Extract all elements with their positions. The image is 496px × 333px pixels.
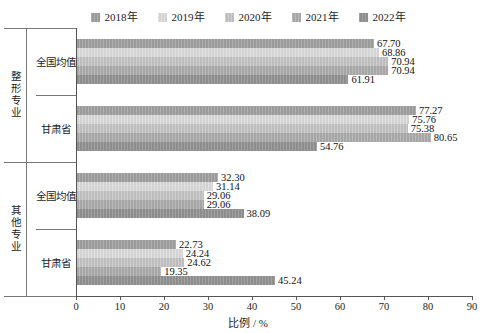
bar-group: 22.7324.2424.6219.3545.24 <box>76 240 472 285</box>
x-tick-mark <box>252 296 253 300</box>
bar-value-label: 61.91 <box>348 74 375 85</box>
x-tick-label: 60 <box>335 301 346 312</box>
x-tick-label: 30 <box>203 301 214 312</box>
y-axis-outer-separator <box>4 162 76 163</box>
legend-item-2019年[interactable]: 2019年 <box>158 12 205 23</box>
chart-root: 2018年2019年2020年2021年2022年 67.7068.8670.9… <box>0 0 496 333</box>
bar-row: 54.76 <box>76 142 472 151</box>
legend-swatch-icon <box>158 13 167 22</box>
y-axis-group-divider <box>26 162 27 296</box>
bar[interactable] <box>76 209 244 218</box>
bar-row: 29.06 <box>76 200 472 209</box>
y-axis-category-label: 甘肃省 <box>36 229 76 296</box>
bar-group: 32.3031.1429.0629.0638.09 <box>76 173 472 218</box>
bar[interactable] <box>76 249 183 258</box>
y-axis-outer-separator <box>4 28 76 29</box>
legend-label: 2022年 <box>373 12 406 23</box>
bar-row: 61.91 <box>76 75 472 84</box>
bar[interactable] <box>76 173 218 182</box>
y-axis-category-label: 全国均值 <box>36 28 76 95</box>
chart-legend: 2018年2019年2020年2021年2022年 <box>0 8 496 26</box>
legend-item-2022年[interactable]: 2022年 <box>359 12 406 23</box>
y-axis-outer-separator <box>4 296 76 297</box>
legend-swatch-icon <box>292 13 301 22</box>
x-axis-label: 比例 / % <box>0 314 496 330</box>
x-tick-label: 10 <box>115 301 126 312</box>
x-tick-mark <box>76 296 77 300</box>
bar[interactable] <box>76 142 317 151</box>
bar-value-label: 38.09 <box>244 208 271 219</box>
legend-label: 2021年 <box>306 12 339 23</box>
bar-row: 80.65 <box>76 133 472 142</box>
y-axis-group-label-text: 整形专业 <box>8 71 23 119</box>
bar[interactable] <box>76 106 416 115</box>
bar[interactable] <box>76 276 275 285</box>
bar[interactable] <box>76 267 161 276</box>
bar-row: 22.73 <box>76 240 472 249</box>
x-tick-mark <box>296 296 297 300</box>
x-axis-line <box>76 296 473 297</box>
bar-row: 67.70 <box>76 39 472 48</box>
x-tick-mark <box>340 296 341 300</box>
bar[interactable] <box>76 124 408 133</box>
bar[interactable] <box>76 115 409 124</box>
legend-swatch-icon <box>225 13 234 22</box>
bar-row: 38.09 <box>76 209 472 218</box>
x-tick-label: 20 <box>159 301 170 312</box>
bar-row: 19.35 <box>76 267 472 276</box>
y-axis-line <box>76 28 77 296</box>
y-axis-category-label: 甘肃省 <box>36 95 76 162</box>
bar[interactable] <box>76 133 431 142</box>
x-tick-label: 40 <box>247 301 258 312</box>
bar[interactable] <box>76 240 176 249</box>
x-tick-mark <box>472 296 473 300</box>
y-axis-group-label-text: 其他专业 <box>8 205 23 253</box>
bar[interactable] <box>76 48 379 57</box>
legend-item-2021年[interactable]: 2021年 <box>292 12 339 23</box>
bar[interactable] <box>76 182 213 191</box>
legend-label: 2019年 <box>172 12 205 23</box>
x-tick-label: 50 <box>291 301 302 312</box>
plot-area: 67.7068.8670.9470.9461.9177.2775.7675.38… <box>76 28 472 296</box>
x-tick-mark <box>120 296 121 300</box>
bar-row: 32.30 <box>76 173 472 182</box>
x-tick-mark <box>384 296 385 300</box>
legend-swatch-icon <box>91 13 100 22</box>
legend-label: 2018年 <box>105 12 138 23</box>
bar-row: 31.14 <box>76 182 472 191</box>
y-axis-group-label: 整形专业 <box>4 28 26 162</box>
bar-group: 67.7068.8670.9470.9461.91 <box>76 39 472 84</box>
bar-value-label: 54.76 <box>317 141 344 152</box>
x-tick-mark <box>428 296 429 300</box>
x-tick-label: 70 <box>379 301 390 312</box>
bar[interactable] <box>76 57 388 66</box>
bar[interactable] <box>76 191 204 200</box>
x-tick-label: 80 <box>423 301 434 312</box>
y-axis-group-label: 其他专业 <box>4 162 26 296</box>
x-tick-mark <box>164 296 165 300</box>
bar-row: 24.62 <box>76 258 472 267</box>
legend-item-2020年[interactable]: 2020年 <box>225 12 272 23</box>
legend-swatch-icon <box>359 13 368 22</box>
bar-row: 29.06 <box>76 191 472 200</box>
bar-row: 45.24 <box>76 276 472 285</box>
bar[interactable] <box>76 75 348 84</box>
bar-row: 75.38 <box>76 124 472 133</box>
bar[interactable] <box>76 66 388 75</box>
x-tick-label: 90 <box>467 301 478 312</box>
legend-label: 2020年 <box>239 12 272 23</box>
bar[interactable] <box>76 39 374 48</box>
bar-value-label: 45.24 <box>275 275 302 286</box>
y-axis-category-label: 全国均值 <box>36 162 76 229</box>
x-tick-mark <box>208 296 209 300</box>
y-axis-group-divider <box>26 28 27 162</box>
legend-item-2018年[interactable]: 2018年 <box>91 12 138 23</box>
bar-row: 70.94 <box>76 66 472 75</box>
bar[interactable] <box>76 200 204 209</box>
bar-row: 24.24 <box>76 249 472 258</box>
bar-group: 77.2775.7675.3880.6554.76 <box>76 106 472 151</box>
x-tick-label: 0 <box>73 301 78 312</box>
